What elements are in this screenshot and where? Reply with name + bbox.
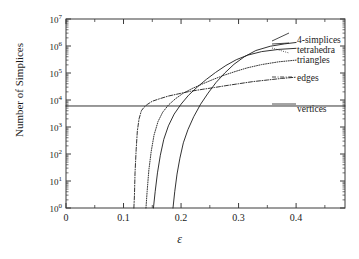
plot-area [0, 0, 359, 259]
chart-figure: Number of Simplices ε 100101102103104105… [0, 0, 359, 259]
series-line-edges [134, 77, 296, 208]
plot-frame [66, 19, 345, 208]
legend-leader-4-simplices [272, 33, 289, 41]
series-line-triangles [146, 60, 296, 208]
series-line-tetrahedra [153, 48, 296, 208]
series-line-4-simplices [173, 42, 296, 208]
